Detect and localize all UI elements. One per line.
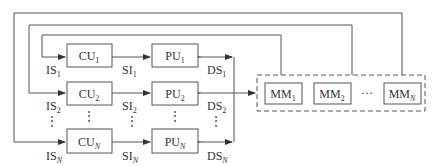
processing-units: PU1 PU2 PUN [152, 44, 198, 153]
vertical-ellipsis-pu: ⋮ [169, 109, 181, 123]
instruction-bus-lines [14, 13, 402, 142]
vertical-ellipsis-ds: ⋮ [210, 114, 222, 128]
control-units: CU1 CU2 CUN [67, 44, 112, 153]
ds-n-label: DSN [207, 149, 228, 165]
horizontal-ellipsis: ··· [361, 86, 373, 100]
vertical-ellipsis-si: ⋮ [126, 114, 138, 128]
si-2-label: SI2 [122, 99, 137, 115]
memory-modules-group: MM1 MM2 ··· MMN [257, 75, 425, 111]
is-n-feedback-line [14, 13, 402, 142]
si-n-label: SIN [122, 149, 139, 165]
is-1-label: IS1 [46, 63, 61, 79]
is-2-label: IS2 [46, 99, 61, 115]
vertical-ellipsis-cu: ⋮ [83, 109, 95, 123]
ds-1-label: DS1 [207, 63, 226, 79]
simd-architecture-diagram: CU1 CU2 CUN PU1 PU2 PUN IS1 IS2 ISN SI1 … [0, 0, 434, 166]
si-1-label: SI1 [122, 63, 137, 79]
ds-2-label: DS2 [207, 99, 226, 115]
vertical-ellipsis-is: ⋮ [46, 114, 58, 128]
is-n-label: ISN [46, 149, 63, 165]
